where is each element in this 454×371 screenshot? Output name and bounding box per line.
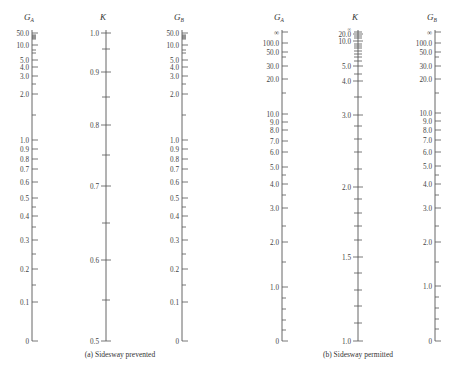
tick-label: 2.0 — [170, 91, 179, 99]
tick-label: 50.0 — [16, 30, 29, 38]
tick-label: 0.3 — [170, 237, 179, 245]
tick-label: 0 — [25, 338, 29, 346]
tick-label: 10.0 — [166, 42, 179, 50]
tick-label: 10.0 — [266, 111, 279, 119]
tick-label: 0.4 — [20, 213, 29, 221]
axis-k: K∞20.010.05.04.03.02.01.51.0 — [338, 12, 363, 346]
axis-g-a: GA∞100.050.030.020.010.09.08.07.06.05.04… — [263, 12, 288, 346]
axis-title: K — [99, 12, 107, 22]
tick-label: 1.0 — [90, 30, 99, 38]
tick-label: 0.9 — [20, 146, 29, 154]
tick-label: 3.0 — [342, 112, 351, 120]
tick-label: 0.3 — [20, 237, 29, 245]
tick-label: 1.0 — [423, 283, 432, 291]
tick-label: 10.0 — [419, 110, 432, 118]
tick-label: 9.0 — [423, 118, 432, 126]
tick-label: 4.0 — [423, 181, 432, 189]
tick-label: 0.9 — [90, 69, 99, 77]
tick-label: 6.0 — [270, 149, 279, 157]
caption-sidesway-permitted: (b) Sidesway permitted — [323, 350, 393, 359]
tick-label: 0 — [428, 338, 432, 346]
tick-label: 0.8 — [170, 156, 179, 164]
tick-label: 0.6 — [170, 179, 179, 187]
tick-label: 3.0 — [423, 205, 432, 213]
alignment-chart: GA50.010.05.04.03.02.01.00.90.80.70.60.5… — [0, 0, 454, 371]
tick-label: 3.0 — [20, 73, 29, 81]
tick-label: 4.0 — [342, 78, 351, 86]
axis-title: GB — [174, 12, 185, 23]
tick-label: 0.6 — [20, 179, 29, 187]
chart-sidesway-prevented: GA50.010.05.04.03.02.01.00.90.80.70.60.5… — [16, 12, 188, 346]
tick-label: 0.5 — [90, 338, 99, 346]
tick-label: 100.0 — [416, 40, 433, 48]
tick-label: 5.0 — [342, 63, 351, 71]
tick-label: 0.6 — [90, 257, 99, 265]
axis-title: GA — [274, 12, 285, 23]
tick-label: 0.4 — [170, 213, 179, 221]
tick-label: 30.0 — [419, 63, 432, 71]
axis-title: K — [351, 12, 359, 22]
tick-label: 6.0 — [423, 149, 432, 157]
tick-label: 7.0 — [423, 137, 432, 145]
tick-label: 0.7 — [20, 166, 29, 174]
tick-label: ∞ — [274, 29, 279, 37]
tick-label: 0.7 — [90, 183, 99, 191]
tick-label: 4.0 — [170, 64, 179, 72]
tick-label: 0.5 — [20, 195, 29, 203]
tick-label: 50.0 — [266, 49, 279, 57]
tick-label: 1.0 — [270, 284, 279, 292]
tick-label: 1.5 — [342, 254, 351, 262]
tick-label: 9.0 — [270, 119, 279, 127]
tick-label: 5.0 — [270, 164, 279, 172]
tick-label: 0 — [275, 338, 279, 346]
axis-title: GB — [427, 12, 438, 23]
tick-label: 100.0 — [263, 40, 280, 48]
tick-label: 0.7 — [170, 166, 179, 174]
tick-label: 0 — [175, 338, 179, 346]
tick-label: 0.1 — [170, 299, 179, 307]
tick-label: 4.0 — [20, 64, 29, 72]
axis-g-a: GA50.010.05.04.03.02.01.00.90.80.70.60.5… — [16, 12, 38, 346]
tick-label: 20.0 — [419, 76, 432, 84]
tick-label: 10.0 — [16, 42, 29, 50]
tick-label: 0.2 — [170, 266, 179, 274]
tick-label: 10.0 — [338, 38, 351, 46]
tick-label: 1.0 — [20, 137, 29, 145]
tick-label: 3.0 — [170, 73, 179, 81]
tick-label: 0.8 — [90, 122, 99, 130]
caption-sidesway-prevented: (a) Sidesway prevented — [85, 350, 156, 359]
tick-label: 4.0 — [270, 181, 279, 189]
chart-sidesway-permitted: GA∞100.050.030.020.010.09.08.07.06.05.04… — [263, 12, 441, 346]
tick-label: 0.2 — [20, 266, 29, 274]
tick-label: 7.0 — [270, 138, 279, 146]
tick-label: 2.0 — [20, 91, 29, 99]
tick-label: 2.0 — [270, 239, 279, 247]
tick-label: 1.0 — [342, 338, 351, 346]
tick-label: ∞ — [427, 29, 432, 37]
tick-label: 1.0 — [170, 137, 179, 145]
tick-label: 0.9 — [170, 146, 179, 154]
tick-label: 3.0 — [270, 205, 279, 213]
tick-label: 5.0 — [423, 163, 432, 171]
tick-label: 50.0 — [419, 49, 432, 57]
tick-label: 20.0 — [266, 76, 279, 84]
tick-label: 2.0 — [423, 239, 432, 247]
axis-g-b: GB∞100.050.030.020.010.09.08.07.06.05.04… — [416, 12, 441, 346]
tick-label: 30.0 — [266, 63, 279, 71]
tick-label: 8.0 — [270, 127, 279, 135]
axis-title: GA — [24, 12, 35, 23]
axis-k: K1.00.90.80.70.60.5 — [90, 12, 111, 346]
tick-label: 0.8 — [20, 156, 29, 164]
tick-label: 50.0 — [166, 30, 179, 38]
tick-label: 0.1 — [20, 299, 29, 307]
tick-label: 2.0 — [342, 184, 351, 192]
tick-label: 8.0 — [423, 127, 432, 135]
axis-g-b: GB50.010.05.04.03.02.01.00.90.80.70.60.5… — [166, 12, 188, 346]
tick-label: 0.5 — [170, 195, 179, 203]
